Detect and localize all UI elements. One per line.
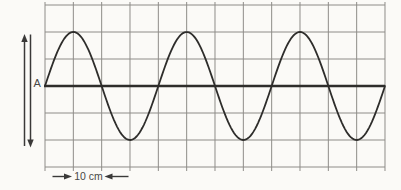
wave-diagram: A 10 cm (0, 0, 401, 190)
figure-background (0, 0, 401, 190)
scale-label: 10 cm (74, 170, 103, 182)
wave-figure-svg: A 10 cm (0, 0, 401, 190)
amplitude-label: A (34, 77, 42, 89)
